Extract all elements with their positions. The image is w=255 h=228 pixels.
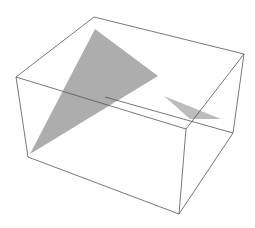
box-edge xyxy=(28,157,179,214)
polygons xyxy=(30,29,221,154)
small-triangle xyxy=(164,96,221,119)
box-edge xyxy=(179,133,233,214)
box-edge xyxy=(179,129,186,214)
3d-plot xyxy=(0,0,255,228)
box-edge xyxy=(105,97,233,133)
large-triangle xyxy=(30,29,158,154)
box-edge xyxy=(16,77,28,157)
